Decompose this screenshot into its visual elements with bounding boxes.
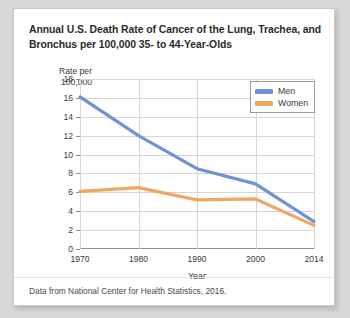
y-tick-label: 4 (68, 206, 73, 216)
y-tick-label: 2 (68, 225, 73, 235)
x-tick-label: 1980 (129, 254, 148, 264)
divider (14, 277, 334, 278)
page-title: Annual U.S. Death Rate of Cancer of the … (29, 23, 335, 52)
page-title-line-2: Bronchus per 100,000 35- to 44-Year-Olds (29, 38, 335, 53)
y-tick-label: 18 (63, 74, 73, 84)
y-tick-label: 8 (68, 168, 73, 178)
legend-item-men[interactable]: Men (255, 85, 308, 97)
y-tick-label: 12 (63, 131, 73, 141)
y-tick-label: 6 (68, 187, 73, 197)
x-tick-label: 1990 (187, 254, 206, 264)
source-note: Data from National Center for Health Sta… (29, 286, 226, 296)
page-title-line-1: Annual U.S. Death Rate of Cancer of the … (29, 23, 335, 38)
y-tick-label: 0 (68, 244, 73, 254)
y-tick-label: 16 (63, 93, 73, 103)
legend-swatch-icon (255, 89, 273, 94)
series-line-men (80, 97, 314, 222)
legend-label: Men (278, 85, 295, 97)
legend: MenWomen (250, 81, 315, 113)
y-tick-label: 14 (63, 112, 73, 122)
x-tick-label: 2000 (246, 254, 265, 264)
figure-card: Annual U.S. Death Rate of Cancer of the … (13, 8, 335, 306)
y-tick-label: 10 (63, 150, 73, 160)
legend-label: Women (278, 97, 308, 109)
plot-area: 024681012141618 19701980199020002014 Men… (80, 79, 314, 249)
series-line-women (80, 188, 314, 226)
x-tick-label: 2014 (304, 254, 323, 264)
legend-swatch-icon (255, 101, 273, 106)
x-tick-label: 1970 (70, 254, 89, 264)
x-axis-title: Year (80, 271, 314, 281)
y-tick-mark (76, 249, 80, 250)
legend-item-women[interactable]: Women (255, 97, 308, 109)
